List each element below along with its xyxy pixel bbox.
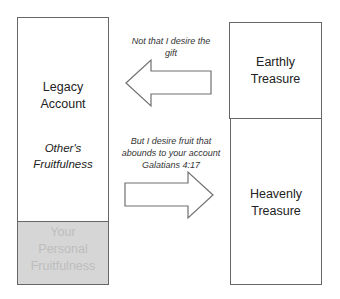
top-arrow-caption: Not that I desire the gift: [113, 35, 229, 59]
top-caption-line1: Not that I desire the: [113, 35, 229, 47]
right-arrow-icon: [125, 172, 213, 218]
left-arrow-icon: [126, 60, 211, 106]
bottom-caption-line1: But I desire fruit that: [113, 135, 229, 147]
bottom-caption-line3: Galatians 4:17: [113, 159, 229, 171]
bottom-caption-line2: abounds to your account: [113, 147, 229, 159]
top-caption-line2: gift: [113, 47, 229, 59]
bottom-arrow-caption: But I desire fruit that abounds to your …: [113, 135, 229, 171]
